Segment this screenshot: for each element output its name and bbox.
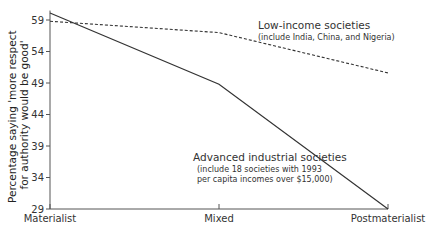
x-tick-label: Mixed [204, 213, 234, 224]
y-tick-label: 54 [31, 46, 44, 57]
y-axis-label-line-1: Percentage saying 'more respect [6, 30, 18, 203]
y-tick-label: 39 [31, 141, 44, 152]
annotation-low-income-sub: (include India, China, and Nigeria) [258, 33, 395, 42]
y-axis: 29343944495459 [31, 11, 50, 215]
x-axis: MaterialistMixedPostmaterialist [24, 204, 426, 224]
annotation-low-income-title: Low-income societies [258, 19, 370, 31]
annotation-low-income: Low-income societies (include India, Chi… [258, 19, 395, 42]
x-tick-label: Materialist [24, 213, 77, 224]
annotation-advanced-title: Advanced industrial societies [193, 151, 347, 163]
y-tick-label: 34 [31, 172, 44, 183]
y-tick-label: 44 [31, 109, 44, 120]
y-tick-label: 59 [31, 15, 44, 26]
annotation-advanced-sub-2: per capita incomes over $15,000) [197, 175, 333, 184]
y-axis-label-line-2: for authority would be good' [18, 40, 30, 189]
annotation-advanced-sub-1: (include 18 societies with 1993 [197, 165, 322, 174]
x-tick-label: Postmaterialist [351, 213, 426, 224]
y-axis-label: Percentage saying 'more respect for auth… [6, 27, 30, 203]
annotation-advanced: Advanced industrial societies (include 1… [193, 151, 347, 184]
chart: 29343944495459 MaterialistMixedPostmater… [0, 0, 426, 235]
y-tick-label: 49 [31, 78, 44, 89]
